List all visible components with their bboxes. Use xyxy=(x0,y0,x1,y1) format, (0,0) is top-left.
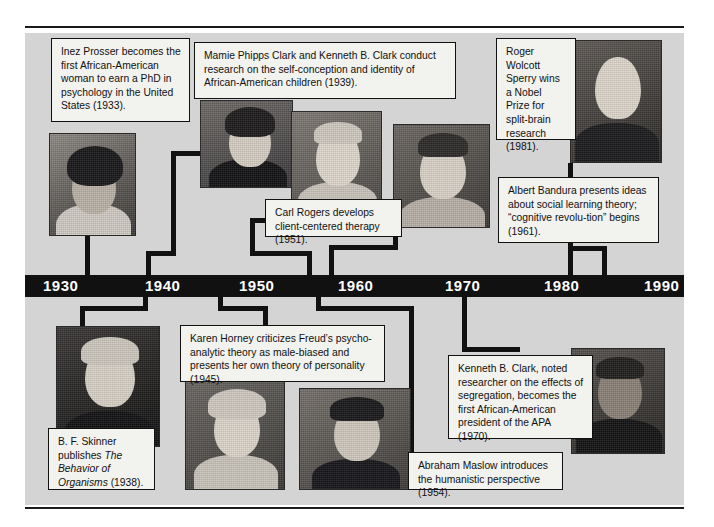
portrait-albert-bandura xyxy=(393,124,490,228)
portrait-roger-sperry xyxy=(570,40,662,163)
axis-tick-1970: 1970 xyxy=(445,275,480,297)
callout-roger-sperry: Roger Wolcott Sperry wins a Nobel Prize … xyxy=(496,38,576,140)
callout-inez-prosser: Inez Prosser becomes the first African-A… xyxy=(51,38,190,122)
portrait-inez-prosser xyxy=(49,133,136,236)
portrait-abraham-maslow xyxy=(299,388,411,490)
top-rule xyxy=(25,26,684,28)
callout-bf-skinner: B. F. Skinner publishes The Behavior of … xyxy=(48,428,155,490)
callout-abraham-maslow: Abraham Maslow introduces the humanistic… xyxy=(408,452,563,490)
connector-clark-vert-a xyxy=(171,151,176,256)
connector-maslow-horz xyxy=(316,306,414,311)
connector-sperry-vert-b xyxy=(602,246,607,276)
connector-bandura-horz-a xyxy=(329,245,398,250)
connector-rogers-vert-b xyxy=(307,251,312,276)
timeline-axis-bar: 1930 1940 1950 1960 1970 1980 1990 xyxy=(25,275,684,297)
connector-skinner-vert-b xyxy=(80,306,85,326)
callout-albert-bandura: Albert Bandura presents ideas about soci… xyxy=(498,177,659,243)
connector-horney-horz xyxy=(218,306,268,311)
connector-kclark-horz xyxy=(462,347,520,352)
axis-tick-1940: 1940 xyxy=(145,275,180,297)
bottom-rule xyxy=(25,507,684,509)
callout-clark-and-clark: Mamie Phipps Clark and Kenneth B. Clark … xyxy=(194,42,456,99)
portrait-mamie-phipps-clark xyxy=(200,100,293,188)
axis-tick-1990: 1990 xyxy=(644,275,679,297)
connector-inez-prosser xyxy=(85,236,90,276)
connector-kclark-vert-a xyxy=(462,297,467,352)
axis-tick-1980: 1980 xyxy=(544,275,579,297)
skinner-text-part2: (1938). xyxy=(108,477,144,488)
callout-carl-rogers: Carl Rogers develops client-centered the… xyxy=(265,199,402,237)
portrait-karen-horney xyxy=(185,378,285,490)
connector-clark-vert-b xyxy=(146,251,151,276)
axis-tick-1950: 1950 xyxy=(239,275,274,297)
callout-karen-horney: Karen Horney criticizes Freud’s psycho-a… xyxy=(180,325,385,382)
connector-rogers-horz-b xyxy=(250,251,312,256)
axis-tick-1960: 1960 xyxy=(338,275,373,297)
timeline-figure: 1930 1940 1950 1960 1970 1980 1990 xyxy=(0,0,714,527)
callout-kenneth-b-clark: Kenneth B. Clark, noted researcher on th… xyxy=(448,355,593,439)
connector-skinner-horz xyxy=(80,306,148,311)
portrait-carl-rogers xyxy=(291,111,382,212)
axis-tick-1930: 1930 xyxy=(43,275,78,297)
